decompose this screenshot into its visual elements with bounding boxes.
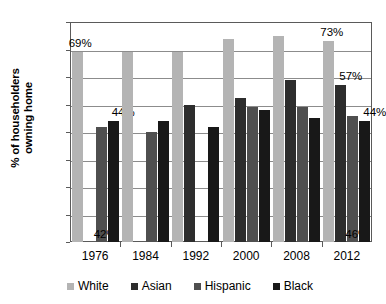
y-axis-title: % of householders owning home	[9, 18, 35, 218]
bar-group	[120, 22, 170, 242]
bar-white[interactable]	[122, 52, 133, 242]
y-tick-mark	[66, 242, 70, 243]
x-tick-label: 2008	[271, 249, 321, 263]
legend-label: Hispanic	[205, 279, 251, 293]
legend-swatch-icon	[131, 283, 138, 290]
x-tick-mark	[322, 242, 323, 247]
bar-asian[interactable]: 57%	[335, 85, 346, 242]
legend-item-asian[interactable]: Asian	[131, 279, 172, 293]
x-tick-label: 1976	[70, 249, 120, 263]
data-label: 69%	[69, 37, 92, 49]
bar-black[interactable]: 44%	[108, 121, 119, 242]
legend-label: White	[78, 279, 109, 293]
bar-group	[221, 22, 271, 242]
legend-item-white[interactable]: White	[67, 279, 109, 293]
y-axis-title-line-2: owning home	[22, 18, 35, 218]
bar-groups: 69%42%44%73%57%46%44%	[70, 22, 372, 242]
bar-hispanic[interactable]	[146, 132, 157, 242]
bar-black[interactable]	[309, 118, 320, 242]
data-label: 73%	[320, 26, 343, 38]
x-tick-label: 2000	[221, 249, 271, 263]
x-tick-mark	[120, 242, 121, 247]
y-axis-title-line-1: % of householders	[9, 18, 22, 218]
data-label: 57%	[339, 70, 362, 82]
legend-item-black[interactable]: Black	[273, 279, 313, 293]
bar-hispanic[interactable]: 42%	[96, 127, 107, 243]
x-tick-mark	[171, 242, 172, 247]
x-axis-labels: 197619841992200020082012	[70, 249, 372, 263]
bar-hispanic[interactable]	[247, 107, 258, 242]
legend-label: Black	[284, 279, 313, 293]
bar-group: 69%42%44%	[70, 22, 120, 242]
bar-group	[171, 22, 221, 242]
bar-hispanic[interactable]: 46%	[347, 116, 358, 243]
bar-group	[271, 22, 321, 242]
bar-group: 73%57%46%44%	[322, 22, 372, 242]
x-tick-label: 1984	[120, 249, 170, 263]
bar-black[interactable]	[259, 110, 270, 242]
bar-asian[interactable]	[184, 105, 195, 243]
legend-swatch-icon	[273, 283, 280, 290]
x-tick-label: 2012	[322, 249, 372, 263]
bar-black[interactable]	[158, 121, 169, 242]
bar-white[interactable]: 69%	[72, 52, 83, 242]
bar-asian[interactable]	[235, 98, 246, 242]
legend-swatch-icon	[67, 283, 74, 290]
bar-white[interactable]	[172, 52, 183, 242]
chart-legend: WhiteAsianHispanicBlack	[0, 279, 380, 293]
legend-item-hispanic[interactable]: Hispanic	[194, 279, 251, 293]
x-tick-mark	[271, 242, 272, 247]
bar-white[interactable]: 73%	[323, 41, 334, 242]
x-tick-label: 1992	[171, 249, 221, 263]
bar-white[interactable]	[273, 36, 284, 242]
bar-black[interactable]	[208, 127, 219, 243]
bar-asian[interactable]	[285, 80, 296, 242]
bar-black[interactable]: 44%	[359, 121, 370, 242]
legend-swatch-icon	[194, 283, 201, 290]
bar-white[interactable]	[223, 39, 234, 243]
legend-label: Asian	[142, 279, 172, 293]
bar-hispanic[interactable]	[297, 107, 308, 242]
x-tick-mark	[221, 242, 222, 247]
data-label: 44%	[363, 106, 386, 118]
